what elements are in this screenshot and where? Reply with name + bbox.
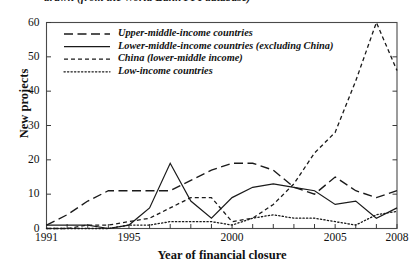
series-line-3 xyxy=(47,211,398,228)
legend-label-3: Low-income countries xyxy=(118,65,213,76)
legend-label-1: Lower-middle-income countries (excluding… xyxy=(118,40,333,51)
legend-swatches xyxy=(64,34,110,72)
series-line-0 xyxy=(47,163,398,225)
legend-label-2: China (lower-middle income) xyxy=(118,52,243,63)
legend-label-0: Upper-middle-income countries xyxy=(118,27,253,38)
